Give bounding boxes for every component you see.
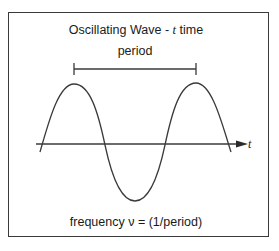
wave-diagram [0,0,279,251]
frequency-label: frequency ν = (1/period) [70,216,202,229]
sine-wave [40,83,231,201]
axis-label-t: t [248,137,251,152]
time-axis [36,141,248,148]
arrowhead-icon [236,141,248,148]
period-bracket [74,63,196,75]
